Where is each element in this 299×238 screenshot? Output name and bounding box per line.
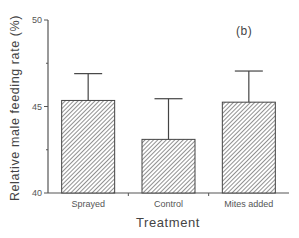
y-tick-label: 50 [32, 15, 42, 25]
x-tick-label: Sprayed [71, 199, 105, 209]
bar-mites-added [222, 102, 275, 193]
bar-control [142, 139, 195, 193]
x-tick-label: Mites added [224, 199, 273, 209]
bar-chart: 404550SprayedControlMites added [0, 0, 299, 238]
y-axis-label: Relative male feeding rate (%) [8, 15, 22, 201]
bar-sprayed [62, 100, 115, 193]
y-tick-label: 40 [32, 188, 42, 198]
x-axis-label: Treatment [136, 215, 200, 230]
bars [62, 71, 276, 193]
y-tick-label: 45 [32, 102, 42, 112]
x-tick-label: Control [154, 199, 183, 209]
panel-label: (b) [236, 24, 252, 38]
